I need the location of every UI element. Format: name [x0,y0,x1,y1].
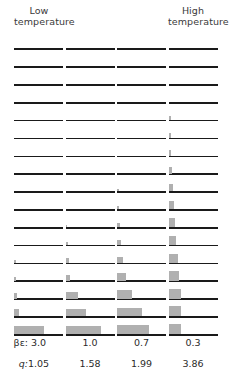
histogram-panel [14,196,63,211]
panel-baseline [169,156,218,158]
histogram-panel [66,285,115,300]
panel-baseline [66,102,115,104]
panel-baseline [66,263,115,265]
footer-row-beta-epsilon: βε: 3.01.00.70.3 [0,337,233,353]
histogram-panel [117,267,166,282]
header-high-line2: temperature [168,16,218,27]
histogram-panel [169,53,218,68]
beta-epsilon-value-2: 1.0 [66,337,115,348]
histogram-panel [169,89,218,104]
histogram-panel [169,142,218,157]
histogram-bar [117,273,126,281]
histogram-panel [117,160,166,175]
panel-baseline [117,245,166,247]
beta-epsilon-value-4: 0.3 [169,337,218,348]
figure-canvas: Low temperature High temperature βε: 3.0… [0,0,233,387]
histogram-bar [66,258,69,263]
panel-baseline [169,48,218,50]
panel-baseline [14,334,63,336]
panel-baseline [14,280,63,282]
histogram-bar [169,254,178,263]
histogram-panel [66,178,115,193]
histogram-panel [117,285,166,300]
histogram-bar [66,292,79,299]
beta-epsilon-value-1: 3.0 [14,337,63,348]
histogram-bar [169,167,172,174]
q-value-2: 1.58 [66,358,115,369]
histogram-panel [117,89,166,104]
histogram-panel [14,142,63,157]
panel-baseline [14,263,63,265]
panel-baseline [117,263,166,265]
panel-baseline [117,209,166,211]
panel-baseline [66,209,115,211]
panel-baseline [169,209,218,211]
histogram-panel [66,214,115,229]
panel-baseline [14,209,63,211]
panel-baseline [169,138,218,140]
histogram-panel [117,106,166,121]
histogram-panel [117,124,166,139]
panel-baseline [66,66,115,68]
histogram-panel [169,178,218,193]
q-value-3: 1.99 [117,358,166,369]
histogram-panel [14,53,63,68]
panel-baseline [117,298,166,300]
panel-baseline [66,84,115,86]
header-low-line1: Low [14,5,64,16]
histogram-bar [14,260,16,263]
histogram-panel [169,285,218,300]
q-value-4: 3.86 [169,358,218,369]
histogram-panel [66,53,115,68]
histogram-panel [117,71,166,86]
panel-baseline [117,334,166,336]
histogram-panel [14,214,63,229]
histogram-panel [117,231,166,246]
histogram-bar [66,225,68,227]
histogram-bar [14,309,19,316]
histogram-panel [117,196,166,211]
panel-baseline [117,102,166,104]
panel-baseline [169,280,218,282]
histogram-panel [14,71,63,86]
histogram-panel [117,249,166,264]
panel-baseline [14,48,63,50]
histogram-bar [117,223,120,227]
panel-baseline [66,173,115,175]
histogram-bar [117,308,142,317]
histogram-panel [169,196,218,211]
header-low-line2: temperature [14,16,64,27]
panel-baseline [169,84,218,86]
histogram-panel [66,71,115,86]
panel-baseline [117,84,166,86]
histogram-bar [66,326,101,335]
panel-baseline [169,316,218,318]
panel-baseline [169,227,218,229]
panel-baseline [14,120,63,122]
histogram-bar [169,150,172,156]
histogram-panel [117,35,166,50]
panel-baseline [14,156,63,158]
histogram-panel [117,142,166,157]
panel-baseline [117,156,166,158]
histogram-panel [66,249,115,264]
histogram-bar [66,309,87,317]
panel-baseline [14,191,63,193]
histogram-bar [117,257,123,263]
column-header-high-temperature: High temperature [168,5,218,27]
panel-baseline [66,191,115,193]
histogram-bar [66,275,71,281]
histogram-panel [14,160,63,175]
histogram-panel [66,196,115,211]
histogram-bar [14,277,16,281]
panel-baseline [14,173,63,175]
histogram-bar [169,306,182,316]
histogram-bar [169,218,175,227]
histogram-bar [117,189,119,191]
histogram-panel [169,231,218,246]
histogram-panel [117,178,166,193]
footer-row-q: q: 1.051.581.993.86 [0,358,233,374]
histogram-panel [169,71,218,86]
histogram-panel [14,249,63,264]
panel-baseline [66,298,115,300]
